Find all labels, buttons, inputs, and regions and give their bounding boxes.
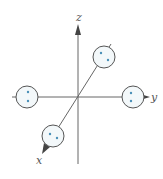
lobe-positive-y — [122, 86, 144, 108]
y-axis-label: y — [150, 91, 158, 104]
lobe-positive-x — [42, 125, 64, 147]
lobe-upper-back-x — [93, 46, 115, 68]
axes-diagram: z y x — [0, 0, 163, 179]
z-axis-label: z — [75, 11, 82, 24]
x-axis-label: x — [36, 154, 43, 167]
electron-dot — [107, 59, 109, 61]
electron-dot — [27, 100, 29, 102]
z-arrow-icon — [75, 24, 81, 35]
electron-dot — [130, 92, 132, 94]
z-axis: z — [75, 11, 82, 164]
electron-dot — [100, 52, 102, 54]
electron-dot — [27, 91, 29, 93]
electron-dot — [49, 133, 51, 135]
electron-dot — [56, 137, 58, 139]
diagram-canvas: z y x — [0, 0, 163, 179]
electron-dot — [130, 100, 132, 102]
lobe-negative-y — [16, 86, 38, 108]
